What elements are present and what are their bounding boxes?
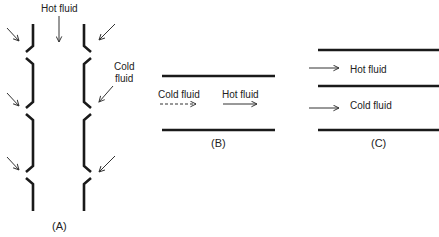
cold-injection-arrow-icon xyxy=(99,24,115,40)
panel-c-caption: (C) xyxy=(371,137,386,149)
cold-injection-arrow-icon xyxy=(7,28,19,41)
panel-b-caption: (B) xyxy=(211,137,226,149)
panel-a-right-wall xyxy=(84,24,91,211)
cold-injection-arrow-icon xyxy=(99,156,115,172)
panel-c: Hot fluid Cold fluid (C) xyxy=(309,50,439,149)
panel-b-hot-fluid-label: Hot fluid xyxy=(222,89,259,100)
diagram-canvas: Hot fluid Cold fluid (A) Cold fluid Hot … xyxy=(0,0,439,237)
panel-b: Cold fluid Hot fluid (B) xyxy=(158,76,275,149)
panel-a-cold-fluid-label-1: Cold xyxy=(114,61,135,72)
panel-a-cold-fluid-label-2: fluid xyxy=(115,73,133,84)
cold-injection-arrow-icon xyxy=(99,86,113,102)
panel-a-caption: (A) xyxy=(52,220,67,232)
cold-injection-arrow-icon xyxy=(7,93,19,106)
panel-a-hot-fluid-label: Hot fluid xyxy=(41,3,78,14)
panel-b-cold-fluid-label: Cold fluid xyxy=(158,89,200,100)
panel-a: Hot fluid Cold fluid (A) xyxy=(7,3,135,232)
panel-a-left-wall xyxy=(26,24,33,211)
cold-injection-arrow-icon xyxy=(7,157,19,170)
panel-c-cold-fluid-label: Cold fluid xyxy=(350,100,392,111)
panel-c-hot-fluid-label: Hot fluid xyxy=(350,64,387,75)
